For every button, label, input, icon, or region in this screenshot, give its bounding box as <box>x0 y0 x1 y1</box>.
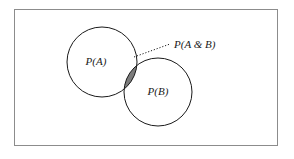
venn-diagram-figure: P(A) P(B) P(A & B) <box>0 0 294 159</box>
intersection-label: P(A & B) <box>173 38 216 51</box>
set-a-label: P(A) <box>85 55 107 68</box>
set-b-label: P(B) <box>147 85 169 98</box>
venn-diagram-canvas: P(A) P(B) P(A & B) <box>0 0 294 159</box>
universe-rectangle <box>15 10 278 146</box>
